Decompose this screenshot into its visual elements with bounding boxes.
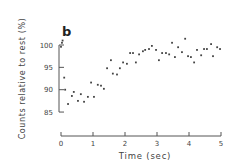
data-point <box>90 82 92 84</box>
data-point <box>122 62 124 64</box>
x-tick-label: 5 <box>219 140 223 148</box>
data-point <box>119 67 121 69</box>
x-tick-label: 2 <box>123 140 127 148</box>
x-axis-label: Time (sec) <box>105 151 185 161</box>
scatter-chart: 859095100012345 <box>0 0 233 167</box>
data-point <box>67 103 69 105</box>
data-point <box>110 59 112 61</box>
data-point <box>174 56 176 58</box>
data-point <box>168 53 170 55</box>
data-point <box>151 45 153 47</box>
data-point <box>216 46 218 48</box>
tick-labels: 859095100012345 <box>40 42 224 149</box>
data-point <box>171 42 173 44</box>
data-point <box>203 48 205 50</box>
axes <box>59 45 221 136</box>
data-point <box>63 77 65 79</box>
data-point <box>181 51 183 53</box>
x-tick-label: 4 <box>187 140 192 148</box>
data-point <box>73 91 75 93</box>
data-point <box>61 42 63 44</box>
data-point <box>100 85 102 87</box>
y-tick-label: 95 <box>44 64 53 72</box>
data-point <box>158 59 160 61</box>
x-tick-label: 3 <box>155 140 159 148</box>
data-point <box>155 49 157 51</box>
data-point <box>142 50 144 52</box>
data-point <box>212 55 214 57</box>
data-points <box>60 38 221 105</box>
data-point <box>97 84 99 86</box>
data-point <box>219 48 221 50</box>
data-point <box>193 62 195 64</box>
data-point <box>60 46 62 48</box>
data-point <box>138 53 140 55</box>
data-point <box>161 52 163 54</box>
data-point <box>148 48 150 50</box>
data-point <box>106 67 108 69</box>
data-point <box>190 56 192 58</box>
data-point <box>116 74 118 76</box>
data-point <box>103 88 105 90</box>
y-tick-label: 85 <box>44 109 53 117</box>
data-point <box>83 101 85 103</box>
y-tick-label: 100 <box>40 42 53 50</box>
data-point <box>144 49 146 51</box>
data-point <box>200 54 202 56</box>
data-point <box>129 52 131 54</box>
data-point <box>196 49 198 51</box>
data-point <box>135 62 137 64</box>
data-point <box>126 63 128 65</box>
data-point <box>80 93 82 95</box>
data-point <box>77 100 79 102</box>
data-point <box>165 52 167 54</box>
data-point <box>210 43 212 45</box>
y-tick-label: 90 <box>44 86 53 94</box>
data-point <box>87 96 89 98</box>
data-point <box>187 55 189 57</box>
panel-label: b <box>62 24 71 39</box>
data-point <box>206 48 208 50</box>
data-point <box>177 46 179 48</box>
data-point <box>112 73 114 75</box>
x-tick-label: 0 <box>59 140 63 148</box>
y-axis-label: Counts relative to rest (%) <box>18 9 27 149</box>
data-point <box>64 89 66 91</box>
x-tick-label: 1 <box>91 140 95 148</box>
data-point <box>132 52 134 54</box>
data-point <box>184 38 186 40</box>
data-point <box>93 96 95 98</box>
data-point <box>62 40 64 42</box>
data-point <box>71 95 73 97</box>
